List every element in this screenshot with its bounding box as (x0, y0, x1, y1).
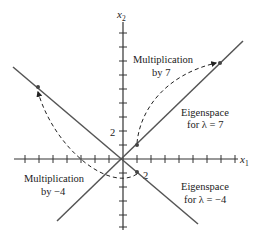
eigenspace-diagram: x1 x2 2 2 Multiplication by 7 Multiplica… (0, 0, 260, 231)
mult-7-label-line2: by 7 (152, 67, 170, 78)
mult-7-label-line1: Multiplication (133, 54, 194, 65)
eigenspace-7-label-line1: Eigenspace (181, 107, 229, 118)
x2-axis (119, 22, 127, 230)
mult-7-arrow (137, 63, 216, 143)
vector-v1-point (135, 143, 139, 147)
eigenspace-lambda-neg4-line (13, 67, 198, 224)
eigenspace-7-label-line2: for λ = 7 (187, 119, 223, 130)
mult-neg4-label-line1: Multiplication (24, 173, 85, 184)
x2-tick-label: 2 (110, 127, 115, 138)
x1-axis-label: x1 (239, 153, 249, 168)
x1-axis (14, 155, 238, 163)
vector-7v1-point (218, 61, 222, 65)
vector-v2-point (135, 170, 139, 174)
x2-axis-label: x2 (116, 8, 126, 23)
eigenspace-neg4-label-line2: for λ = −4 (184, 194, 227, 205)
eigenspace-neg4-label-line1: Eigenspace (181, 181, 229, 192)
vector-neg4v2-point (36, 85, 40, 89)
mult-neg4-arrow (38, 92, 137, 178)
mult-neg4-label-line2: by −4 (41, 186, 66, 197)
